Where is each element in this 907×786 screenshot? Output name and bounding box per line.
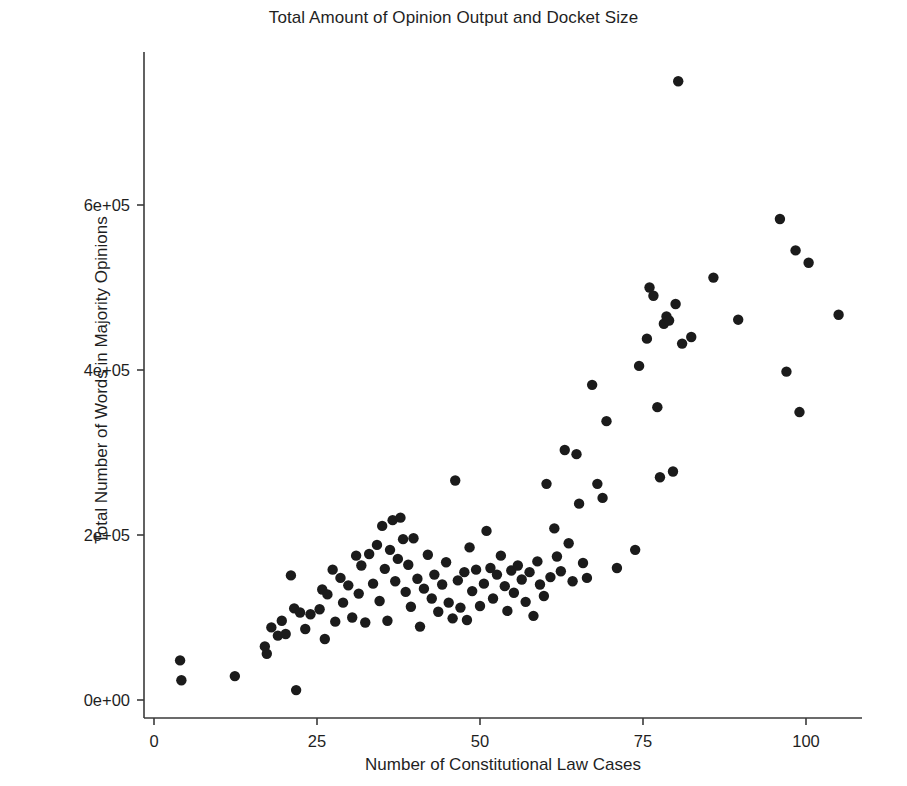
data-point [368, 578, 378, 588]
data-point [549, 523, 559, 533]
data-point [541, 479, 551, 489]
scatter-plot-figure: Total Amount of Opinion Output and Docke… [0, 0, 907, 786]
data-point [556, 566, 566, 576]
data-point [655, 472, 665, 482]
data-point [592, 479, 602, 489]
data-point [335, 573, 345, 583]
data-point [733, 314, 743, 324]
data-point [266, 622, 276, 632]
data-point [395, 512, 405, 522]
data-point [230, 671, 240, 681]
data-point [492, 569, 502, 579]
data-point [364, 549, 374, 559]
data-point [587, 380, 597, 390]
data-point [574, 498, 584, 508]
x-tick-label: 100 [792, 732, 820, 750]
data-point [513, 560, 523, 570]
data-point [390, 576, 400, 586]
data-point [415, 621, 425, 631]
data-point [833, 310, 843, 320]
x-tick-label: 75 [634, 732, 652, 750]
data-point [398, 534, 408, 544]
data-point [664, 315, 674, 325]
data-point [670, 299, 680, 309]
data-point [330, 616, 340, 626]
data-point [790, 245, 800, 255]
data-point [437, 579, 447, 589]
data-point [356, 560, 366, 570]
data-point [668, 466, 678, 476]
data-point [403, 560, 413, 570]
data-point [708, 272, 718, 282]
data-point [509, 588, 519, 598]
x-tick-label: 50 [471, 732, 489, 750]
data-point [347, 612, 357, 622]
data-point [642, 333, 652, 343]
data-point [535, 579, 545, 589]
data-point [377, 521, 387, 531]
data-point [571, 449, 581, 459]
data-point [471, 564, 481, 574]
data-point [496, 550, 506, 560]
data-point [781, 366, 791, 376]
data-point [176, 675, 186, 685]
data-point [277, 616, 287, 626]
data-point [481, 526, 491, 536]
data-point [393, 554, 403, 564]
data-point [322, 589, 332, 599]
data-point [262, 649, 272, 659]
data-point [429, 569, 439, 579]
data-point [677, 338, 687, 348]
data-point [502, 606, 512, 616]
data-point [314, 604, 324, 614]
data-point [634, 361, 644, 371]
axes-group [144, 52, 862, 718]
data-point [291, 685, 301, 695]
data-point [630, 545, 640, 555]
data-point [406, 602, 416, 612]
data-point [560, 445, 570, 455]
data-point [433, 607, 443, 617]
data-point [459, 567, 469, 577]
data-point [517, 574, 527, 584]
data-point [385, 545, 395, 555]
data-point [563, 538, 573, 548]
data-point [552, 551, 562, 561]
x-axis-ticks: 0255075100 [149, 718, 819, 750]
data-point [327, 564, 337, 574]
data-point [419, 583, 429, 593]
data-point [175, 655, 185, 665]
data-point [467, 586, 477, 596]
data-point [300, 624, 310, 634]
data-point [462, 615, 472, 625]
data-point [351, 550, 361, 560]
data-point [343, 580, 353, 590]
data-point [354, 588, 364, 598]
data-point [803, 258, 813, 268]
data-point [380, 564, 390, 574]
data-point [539, 591, 549, 601]
data-point [567, 576, 577, 586]
data-point [320, 634, 330, 644]
data-point [412, 574, 422, 584]
data-point [479, 578, 489, 588]
data-point [673, 76, 683, 86]
data-point [582, 573, 592, 583]
x-tick-label: 25 [308, 732, 326, 750]
data-point [382, 616, 392, 626]
data-point [648, 291, 658, 301]
data-point [532, 556, 542, 566]
data-point [374, 596, 384, 606]
data-point [453, 575, 463, 585]
data-points-group [175, 76, 844, 695]
data-point [545, 572, 555, 582]
data-point [455, 602, 465, 612]
x-axis-label: Number of Constitutional Law Cases [144, 755, 862, 775]
data-point [612, 563, 622, 573]
data-point [444, 597, 454, 607]
data-point [686, 332, 696, 342]
data-point [475, 601, 485, 611]
data-point [794, 407, 804, 417]
data-point [338, 597, 348, 607]
data-point [281, 629, 291, 639]
